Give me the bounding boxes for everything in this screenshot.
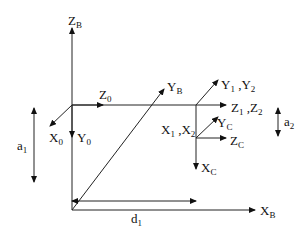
y0-label: Y0 <box>77 130 91 147</box>
zb-label: ZB <box>68 13 82 30</box>
y12-axis <box>196 80 218 105</box>
zc-label: ZC <box>230 133 244 150</box>
y12-label: Y1 ,Y2 <box>221 77 255 94</box>
z0-label: Z0 <box>99 87 112 104</box>
yc-label: YC <box>217 115 232 132</box>
xb-label: XB <box>260 203 275 220</box>
z12-label: Z1 ,Z2 <box>231 100 262 117</box>
a2-label: a2 <box>284 114 294 131</box>
xc-label: XC <box>201 160 216 177</box>
yb-axis <box>72 89 164 210</box>
x0-label: X0 <box>49 130 63 147</box>
yc-axis <box>196 117 218 138</box>
yb-label: YB <box>167 79 182 96</box>
d1-label: d1 <box>131 211 142 228</box>
x0-axis <box>50 105 72 126</box>
a1-label: a1 <box>17 138 27 155</box>
frames-diagram: ZB YB XB Z0 X0 Y0 Y1 ,Y2 Z1 ,Z2 X1 ,X2 Y… <box>0 0 306 232</box>
x12-label: X1 ,X2 <box>161 122 195 139</box>
